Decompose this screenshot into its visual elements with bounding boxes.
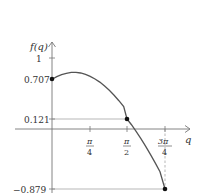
x-axis-label: q	[185, 134, 191, 145]
x-tick-3pi4-num: 3π	[158, 137, 169, 146]
curve-f	[52, 72, 165, 189]
x-tick-pi4-num: π	[86, 137, 93, 146]
y-tick-m0879: −0.879	[13, 185, 47, 193]
x-tick-pi4-den: 4	[87, 148, 92, 157]
point-3pi4	[163, 187, 168, 192]
x-tick-pi2-num: π	[123, 137, 130, 146]
point-start	[50, 77, 55, 82]
x-tick-pi2-den: 2	[124, 148, 129, 157]
y-axis-label: f(q)	[29, 41, 48, 52]
chart: f(q) q 1 0.707 0.121 −0.879 π 4 π 2 3π 4	[0, 0, 201, 193]
y-tick-1: 1	[36, 54, 42, 64]
y-tick-0707: 0.707	[24, 75, 50, 85]
point-pi2	[125, 117, 130, 122]
y-tick-0121: 0.121	[24, 115, 50, 125]
x-tick-3pi4-den: 4	[162, 148, 167, 157]
